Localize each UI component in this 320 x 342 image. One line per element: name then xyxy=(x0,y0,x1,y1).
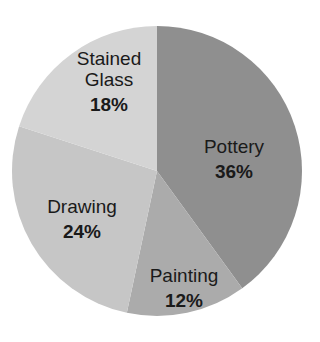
slice-label: Drawing xyxy=(47,196,117,217)
slice-label: Painting xyxy=(150,265,219,286)
pie-chart: Pottery36%Painting12%Drawing24%StainedGl… xyxy=(0,0,320,342)
slice-label: Stained xyxy=(77,48,141,69)
slice-percentage: 24% xyxy=(63,221,101,242)
slice-percentage: 36% xyxy=(215,161,253,182)
slice-percentage: 18% xyxy=(90,94,128,115)
slice-label: Glass xyxy=(85,69,134,90)
pie-chart-canvas: Pottery36%Painting12%Drawing24%StainedGl… xyxy=(0,0,320,342)
slice-label: Pottery xyxy=(204,136,265,157)
slice-percentage: 12% xyxy=(165,290,203,311)
